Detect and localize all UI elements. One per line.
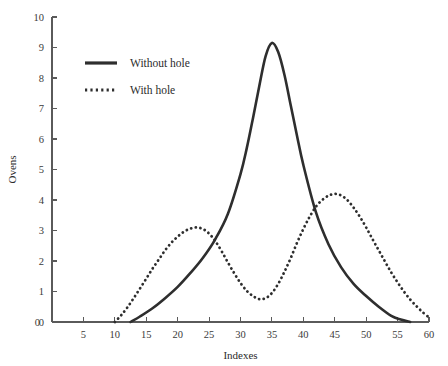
chart-figure: 012345678910 051015202530354045505560 Ov… [0,0,448,366]
x-tick-label: 45 [330,329,341,340]
y-tick-label: 6 [39,134,44,145]
y-tick-label: 5 [39,164,44,175]
y-tick-label: 7 [39,103,44,114]
x-tick-label: 15 [141,329,152,340]
x-tick-label: 60 [424,329,435,340]
figure-background [0,0,448,366]
y-tick-label: 4 [39,195,45,206]
legend-label-without-hole: Without hole [130,57,190,69]
x-tick-label: 30 [235,329,246,340]
x-tick-label: 35 [267,329,278,340]
x-tick-label: 10 [110,329,121,340]
y-tick-label: 9 [39,42,44,53]
x-tick-label: 25 [204,329,215,340]
y-axis-title: Ovens [6,155,18,183]
y-tick-label: 2 [39,256,44,267]
x-tick-label: 50 [361,329,372,340]
y-tick-label: 10 [34,12,45,23]
x-tick-label: 0 [35,317,40,328]
x-tick-label: 40 [298,329,309,340]
chart-canvas: 012345678910 051015202530354045505560 Ov… [0,0,448,366]
x-tick-label: 55 [392,329,403,340]
x-axis-title: Indexes [223,349,257,361]
x-tick-label: 5 [81,329,86,340]
y-tick-label: 1 [39,286,44,297]
y-tick-label: 8 [39,73,44,84]
legend-label-with-hole: With hole [130,84,175,96]
x-tick-label: 20 [172,329,183,340]
y-tick-label: 3 [39,225,44,236]
